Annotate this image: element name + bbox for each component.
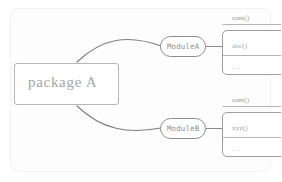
package-label: package A (28, 74, 97, 91)
module-a-method-0: sum() (232, 14, 249, 22)
connector-package-to-module-a (77, 39, 161, 62)
module-b-method-1: xyz() (232, 124, 248, 132)
module-b-method-2: ... (233, 145, 241, 153)
module-b-method-0: sum() (232, 96, 249, 104)
methods-panel-b-bracket (223, 113, 282, 157)
module-a-method-2: ... (233, 63, 241, 71)
diagram-canvas: package A ModuleA ModuleB sum() abc() ..… (0, 0, 281, 182)
module-b-label: ModuleB (167, 124, 199, 133)
methods-panel-a-bracket (223, 31, 282, 75)
module-a-method-1: abc() (232, 42, 247, 50)
module-a-label: ModuleA (167, 42, 199, 51)
connector-package-to-module-b (77, 106, 161, 130)
diagram-vector-layer (0, 0, 281, 182)
